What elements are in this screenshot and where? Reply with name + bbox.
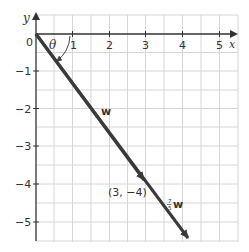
y-tick-label: −3 bbox=[15, 140, 31, 153]
coordinate-plane: y x 0 1 2 3 4 5 −1 −2 −3 −4 −5 θ w (3, −… bbox=[0, 0, 249, 252]
origin-label: 0 bbox=[26, 36, 33, 49]
theta-label: θ bbox=[49, 38, 57, 52]
vector-diagram: y x 0 1 2 3 4 5 −1 −2 −3 −4 −5 θ w (3, −… bbox=[0, 0, 249, 252]
x-tick-label: 2 bbox=[106, 39, 113, 52]
vector-w-label: w bbox=[101, 105, 111, 118]
scaled-w-label: w bbox=[173, 198, 183, 211]
angle-arc bbox=[57, 36, 70, 61]
scaled-vector-label: 7 5 w bbox=[167, 198, 183, 211]
y-tick-label: −1 bbox=[15, 65, 31, 78]
coef-denominator: 5 bbox=[168, 205, 172, 211]
point-label: (3, −4) bbox=[108, 186, 147, 199]
y-tick-label: −4 bbox=[15, 178, 31, 191]
y-tick-label: −5 bbox=[15, 216, 31, 229]
x-tick-label: 1 bbox=[70, 39, 77, 52]
y-axis-label: y bbox=[22, 11, 30, 25]
y-tick-label: −2 bbox=[15, 103, 31, 116]
x-tick-label: 5 bbox=[216, 39, 223, 52]
x-tick-label: 4 bbox=[179, 39, 186, 52]
x-axis-label: x bbox=[229, 38, 236, 51]
coef-numerator: 7 bbox=[168, 198, 172, 204]
x-tick-label: 3 bbox=[142, 39, 149, 52]
